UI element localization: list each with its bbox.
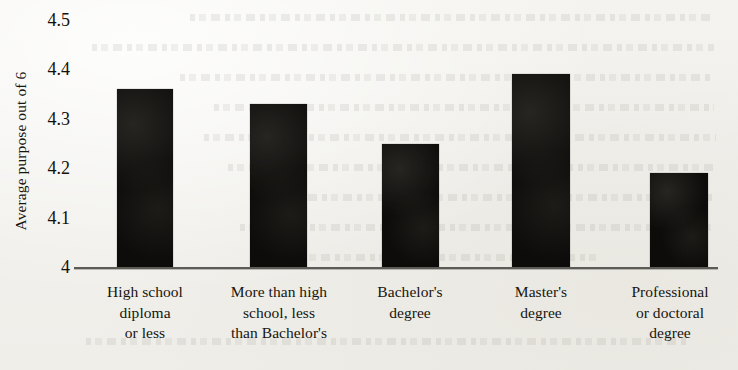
x-tick-label-line: degree (344, 303, 476, 324)
y-axis-tick-labels: 4.5 4.4 4.3 4.2 4.1 4 (24, 0, 70, 370)
x-tick-label-line: than Bachelor's (203, 323, 355, 344)
x-tick-label-line: degree (604, 323, 736, 344)
x-tick-label: More than highschool, lessthan Bachelor'… (203, 282, 355, 344)
x-tick-label-line: More than high (203, 282, 355, 303)
x-axis-shadow (74, 269, 718, 270)
x-tick-label-line: High school (75, 282, 215, 303)
bar (382, 144, 439, 268)
bar-chart: Average purpose out of 6 4.5 4.4 4.3 4.2… (0, 0, 738, 370)
x-tick-label: High schooldiplomaor less (75, 282, 215, 344)
x-tick-label-line: or less (75, 323, 215, 344)
x-tick-label-line: Professional (604, 282, 736, 303)
y-tick-label: 4.2 (26, 159, 70, 177)
y-tick-label: 4.3 (26, 110, 70, 128)
bar (650, 173, 708, 267)
bar (250, 104, 307, 267)
bar (117, 89, 173, 267)
x-tick-label-line: or doctoral (604, 303, 736, 324)
y-tick-label: 4 (26, 258, 70, 276)
x-tick-label: Professionalor doctoraldegree (604, 282, 736, 344)
x-tick-label: Master'sdegree (475, 282, 607, 323)
bar (512, 74, 570, 267)
x-axis-line (74, 267, 718, 269)
x-tick-label-line: diploma (75, 303, 215, 324)
x-tick-label-line: Bachelor's (344, 282, 476, 303)
x-tick-label-line: school, less (203, 303, 355, 324)
y-tick-label: 4.5 (26, 11, 70, 29)
y-tick-label: 4.1 (26, 209, 70, 227)
x-tick-label-line: degree (475, 303, 607, 324)
x-tick-label: Bachelor'sdegree (344, 282, 476, 323)
x-tick-label-line: Master's (475, 282, 607, 303)
y-tick-label: 4.4 (26, 60, 70, 78)
